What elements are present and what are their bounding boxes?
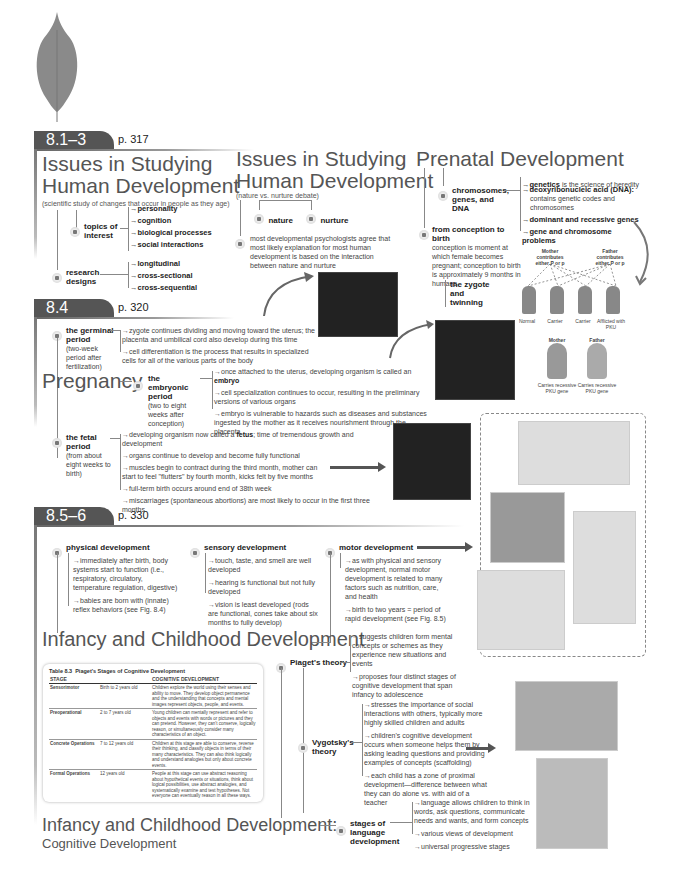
section-page: p. 320 — [118, 301, 149, 313]
dna-item: deoxyribonucleic acid (DNA): contains ge… — [522, 185, 652, 212]
problems-item: gene and chromosome problems — [522, 227, 622, 245]
connector — [205, 553, 206, 593]
connector — [362, 704, 363, 776]
table-row: Preoperational 2 to 7 years old Young ch… — [49, 709, 257, 740]
child-label: Carrier — [540, 318, 570, 324]
connector — [128, 262, 129, 288]
vygotsky-items: stresses the importance of social intera… — [364, 700, 489, 807]
conception-text: from conception to birth conception is m… — [432, 225, 522, 288]
designs-node: research designs — [52, 268, 112, 286]
topics-node: topics of interest — [70, 222, 130, 240]
chromosomes-node: chromosomes, genes, and DNA — [438, 186, 448, 204]
section-tab: 8.4 — [34, 299, 114, 317]
section-rule — [34, 525, 464, 527]
connector — [424, 168, 425, 228]
connector — [57, 210, 58, 270]
physical-label: physical development — [66, 543, 150, 552]
father-caption: Carries recessive PKU gene — [576, 382, 618, 394]
section-bar — [34, 525, 37, 825]
embryo-photo — [435, 320, 515, 400]
sensory-node — [190, 543, 200, 561]
connector — [352, 742, 362, 743]
connector — [312, 642, 330, 643]
bullet-icon — [190, 548, 200, 558]
arrow-icon — [417, 546, 467, 549]
connector — [520, 177, 521, 231]
zygote-item: the zygote and twinning — [445, 280, 495, 307]
section-tab: 8.1–3 — [34, 131, 114, 149]
section-rule — [34, 317, 234, 319]
embryonic-label: the embryonic period (two to eight weeks… — [148, 374, 200, 428]
connector — [340, 553, 341, 568]
bullet-icon — [336, 826, 346, 836]
connector — [120, 228, 128, 229]
table-caption: Table 8.3 Piaget's Stages of Cognitive D… — [49, 668, 257, 674]
table-row: Sensorimotor Birth to 2 years old Childr… — [49, 684, 257, 709]
child-figure — [550, 286, 564, 314]
table-header: COGNITIVE DEVELOPMENT — [151, 675, 257, 684]
children-figures — [520, 286, 660, 316]
bullet-icon — [298, 743, 308, 753]
child-figure — [606, 286, 620, 314]
child-label: Carrier — [568, 318, 598, 324]
connector — [100, 274, 128, 275]
connector — [110, 438, 120, 439]
table-header — [99, 675, 151, 684]
child-label: Afflicted with PKU — [596, 318, 626, 330]
consensus-node — [235, 234, 245, 252]
toddler-walking-photo — [573, 511, 636, 624]
nature-node: nature — [254, 209, 293, 227]
sensory-label: sensory development — [204, 543, 286, 552]
mother-figure — [547, 343, 567, 379]
infancy-title: Infancy and Childhood Development — [42, 628, 364, 650]
germinal-items: zygote continues dividing and moving tow… — [122, 326, 322, 365]
connector — [68, 553, 69, 606]
connector — [240, 200, 241, 236]
germinal-label: the germinal period (two-week period aft… — [66, 326, 116, 371]
baby-waving-photo — [536, 758, 608, 849]
child-figure — [522, 286, 536, 314]
piaget-items: suggests children form mental concepts o… — [352, 632, 462, 699]
fetal-node — [52, 433, 62, 451]
piaget-label: Piaget's theory — [290, 658, 347, 667]
connector — [128, 207, 129, 251]
baby-crawling-photo-2 — [477, 570, 565, 650]
connector — [443, 168, 444, 186]
bullet-icon — [306, 214, 316, 224]
connector — [390, 822, 412, 823]
reading-photo — [515, 681, 618, 751]
table-row: Formal Operations 12 years old People at… — [49, 770, 257, 800]
section-bar — [34, 317, 37, 427]
baby-crawling-photo — [518, 421, 630, 485]
table-row: Concrete Operations 7 to 12 years old Ch… — [49, 739, 257, 770]
topics-list: personality cognition biological process… — [130, 204, 212, 252]
arrow-icon — [466, 747, 490, 750]
bullet-icon — [52, 273, 62, 283]
designs-list: longitudinal cross-sectional cross-seque… — [130, 259, 197, 295]
child-label: Normal — [512, 318, 542, 324]
language-items: language allows children to think in wor… — [414, 798, 534, 851]
table-header-row: STAGE COGNITIVE DEVELOPMENT — [49, 675, 257, 684]
bullet-icon — [70, 227, 80, 237]
physical-items: immediately after birth, body systems st… — [73, 556, 178, 614]
motor-items: as with physical and sensory development… — [345, 556, 450, 623]
bullet-icon — [254, 214, 264, 224]
curved-arrow-icon — [630, 218, 660, 288]
bullet-icon — [235, 239, 245, 249]
connector — [281, 668, 282, 818]
issues-title-b: Issues in Studying Human Development — [236, 148, 433, 192]
issues-subtitle-b: (nature vs. nurture debate) — [236, 192, 319, 199]
language-node — [336, 821, 346, 839]
bullet-icon — [52, 438, 62, 448]
section-page: p. 330 — [118, 509, 149, 521]
section-tab: 8.5–6 — [34, 507, 114, 525]
consensus-text: most developmental psychologists agree t… — [250, 234, 400, 270]
connector — [505, 190, 520, 191]
fetus-photo — [393, 423, 471, 500]
connector — [320, 825, 336, 826]
vygotsky-label: Vygotsky's theory — [312, 738, 352, 756]
section-rule — [34, 149, 254, 151]
leaf-icon — [32, 10, 82, 122]
fetal-items: developing organism now called a fetus; … — [122, 430, 392, 514]
bullet-icon — [133, 381, 143, 391]
